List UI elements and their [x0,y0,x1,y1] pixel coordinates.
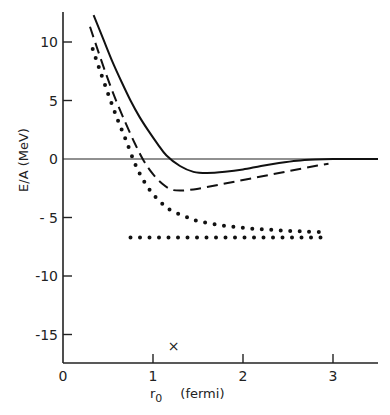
x-axis-label-unit: (fermi) [180,386,224,401]
y-tick-label: -15 [35,327,58,343]
x-tick-label: 3 [329,368,338,384]
y-tick-label: 5 [49,93,58,109]
x-tick-label: 0 [59,368,68,384]
axes: 1050- 5-10-150123 [35,12,378,384]
y-tick-label: -10 [35,268,58,284]
curve-dotted-curve [93,49,324,232]
markers: × [168,338,180,354]
cross-marker-icon: × [168,338,180,354]
x-tick-label: 1 [149,368,158,384]
y-tick-label: - 5 [40,210,58,226]
x-tick-label: 2 [239,368,248,384]
y-axis-label: E/A (MeV) [16,128,31,192]
x-axis-label-sub: 0 [155,392,162,405]
curve-dashed [90,27,329,191]
curves [90,15,378,237]
curve-solid [94,15,378,173]
chart: 1050- 5-10-150123 × E/A (MeV) r0(fermi) [0,0,390,415]
x-axis-label: r0(fermi) [150,386,224,405]
y-tick-label: 0 [49,151,58,167]
y-tick-label: 10 [40,34,58,50]
